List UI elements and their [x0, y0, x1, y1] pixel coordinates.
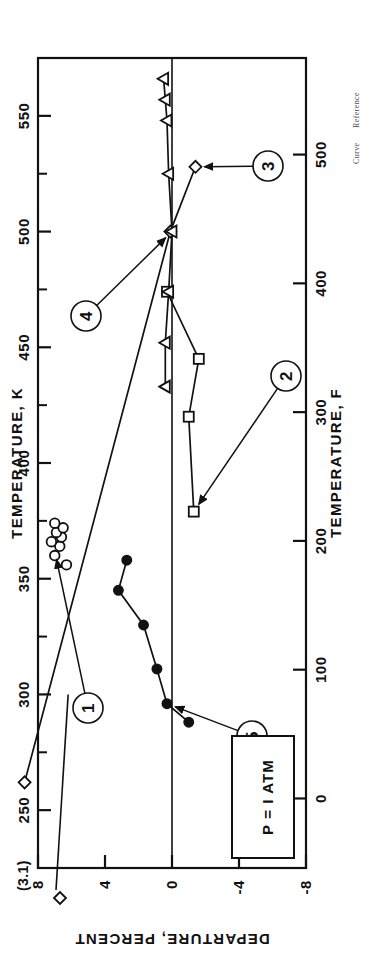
series-1	[47, 518, 72, 569]
callout-label-3: 3	[259, 161, 278, 171]
callout-2: 2	[199, 361, 301, 504]
out-of-range-marker	[54, 892, 66, 904]
marker-open-circle	[50, 551, 60, 561]
callout-leader-1	[57, 560, 85, 694]
x-ticklabel-k: 450	[15, 334, 32, 361]
marker-filled-circle	[114, 586, 123, 595]
marker-open-square	[194, 354, 204, 364]
callout-leader-2	[199, 388, 278, 504]
marker-open-triangle	[158, 73, 169, 85]
marker-filled-circle	[152, 664, 161, 673]
x-ticklabel-f: 100	[312, 656, 329, 683]
x-ticklabel-k: 250	[15, 797, 32, 824]
x-axis-k-title: TEMPERATURE, K	[8, 387, 25, 539]
caption-reference-word: Reference	[352, 92, 361, 128]
y-ticklabel: -4	[230, 880, 247, 895]
pressure-note-label: P = I ATM	[259, 759, 276, 835]
marker-filled-circle	[139, 620, 148, 629]
series-line-5	[118, 560, 188, 722]
caption-curve-word: Curve	[352, 142, 361, 164]
y-axis-ticklabels: 840-4-8	[29, 880, 314, 895]
x-axis-f-ticks	[293, 155, 306, 799]
y-axis-title: DEPARTURE, PERCENT	[74, 931, 270, 948]
curve-callout-layer: 12345	[57, 151, 301, 751]
callout-label-4: 4	[77, 311, 96, 321]
x-axis-f-title: TEMPERATURE, F	[327, 388, 344, 538]
series-2	[162, 287, 204, 517]
out-of-range-leader	[56, 694, 68, 890]
marker-open-circle	[47, 537, 57, 547]
callout-1: 1	[57, 560, 103, 723]
out-of-range-label: (3.1)	[15, 860, 31, 891]
data-series-layer	[19, 73, 204, 789]
marker-open-circle	[50, 518, 60, 528]
marker-filled-circle	[184, 718, 193, 727]
x-ticklabel-f: 0	[312, 794, 329, 803]
x-ticklabel-k: 500	[15, 218, 32, 245]
callout-4: 4	[71, 238, 166, 331]
callout-label-1: 1	[79, 703, 98, 713]
marker-open-square	[189, 507, 199, 517]
marker-filled-circle	[162, 699, 171, 708]
x-ticklabel-k: 350	[15, 565, 32, 592]
y-ticklabel: -8	[297, 880, 314, 895]
y-ticklabel: 4	[96, 880, 113, 889]
callout-3: 3	[204, 151, 283, 181]
callout-leader-3	[204, 166, 253, 167]
callout-label-2: 2	[277, 371, 296, 381]
series-4	[158, 73, 177, 393]
series-5	[114, 556, 194, 727]
figure-stage: 250300350400450500550 0100200300400500 8…	[0, 0, 385, 976]
marker-open-diamond	[189, 161, 201, 173]
pressure-note-box: P = I ATM	[232, 736, 294, 858]
y-ticklabel: 8	[29, 880, 46, 889]
callout-leader-4	[97, 238, 166, 306]
marker-open-square	[184, 412, 194, 422]
x-ticklabel-k: 550	[15, 102, 32, 129]
y-ticklabel: 0	[163, 880, 180, 889]
marker-open-diamond	[19, 776, 31, 788]
chart-svg: 250300350400450500550 0100200300400500 8…	[0, 0, 385, 976]
marker-filled-circle	[122, 556, 131, 565]
x-ticklabel-f: 400	[312, 270, 329, 297]
x-ticklabel-k: 300	[15, 681, 32, 708]
x-ticklabel-f: 500	[312, 141, 329, 168]
marker-open-circle	[62, 560, 72, 570]
